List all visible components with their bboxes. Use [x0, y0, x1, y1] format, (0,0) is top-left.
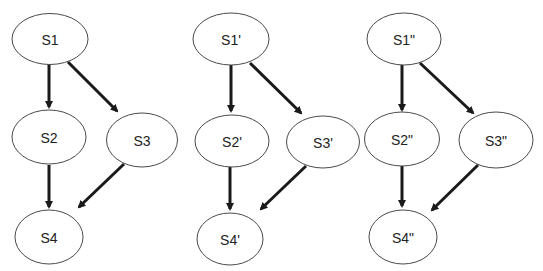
node-label: S3 [133, 133, 150, 149]
node-s4: S4 [15, 210, 83, 264]
node-s3pp: S3" [459, 112, 533, 168]
node-s1pp: S1" [367, 13, 441, 65]
node-s4p: S4' [197, 213, 263, 265]
edge-s1p-s3p [250, 63, 301, 113]
node-label: S1' [221, 32, 241, 48]
edge-s3pp-s4pp [432, 165, 478, 210]
graph-2: S1' S2' S3' S4' [193, 13, 360, 265]
node-s3: S3 [107, 113, 178, 167]
node-label: S2' [222, 134, 242, 150]
edge-s1pp-s3pp [420, 63, 473, 113]
node-label: S2 [40, 130, 57, 146]
node-s2pp: S2" [365, 112, 440, 166]
state-graphs-diagram: S1 S2 S3 S4 S1' S2' S3' S4' S1" S2" S3" … [0, 0, 543, 271]
edge-s3-s4 [79, 164, 124, 207]
node-label: S2" [391, 132, 413, 148]
edge-s1-s3 [68, 62, 117, 111]
node-label: S4 [40, 230, 57, 246]
node-s3p: S3' [287, 116, 360, 168]
node-label: S4' [220, 232, 240, 248]
node-s1p: S1' [193, 13, 269, 65]
node-label: S1" [393, 32, 415, 48]
node-s2: S2 [12, 110, 86, 164]
graph-3: S1" S2" S3" S4" [365, 13, 534, 264]
graph-1: S1 S2 S3 S4 [12, 14, 178, 265]
node-s2p: S2' [195, 115, 269, 167]
node-label: S1 [41, 32, 58, 48]
node-label: S3" [485, 133, 507, 149]
edge-s3p-s4p [261, 166, 306, 209]
node-label: S4" [392, 230, 414, 246]
node-s4pp: S4" [369, 210, 437, 264]
node-s1: S1 [12, 14, 88, 65]
node-label: S3' [313, 135, 333, 151]
